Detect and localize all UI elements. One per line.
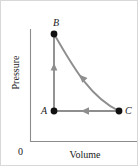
axis-origin-label: 0 xyxy=(18,146,23,157)
pv-diagram-canvas xyxy=(1,1,138,166)
y-axis-label: Pressure xyxy=(10,37,21,109)
pv-diagram-figure: A B C Pressure Volume 0 xyxy=(0,0,138,166)
state-point-b-dot xyxy=(51,31,58,38)
process-path-b-to-c xyxy=(54,34,119,111)
state-point-a-label: A xyxy=(41,106,47,116)
arrow-head-b-to-c xyxy=(79,75,88,83)
state-point-c-label: C xyxy=(125,106,132,116)
state-point-c-dot xyxy=(116,108,123,115)
state-point-a-dot xyxy=(51,108,58,115)
x-axis-label: Volume xyxy=(45,149,125,160)
arrow-head-a-to-b xyxy=(51,63,58,71)
arrow-head-c-to-a xyxy=(81,107,89,114)
state-point-b-label: B xyxy=(53,18,59,28)
